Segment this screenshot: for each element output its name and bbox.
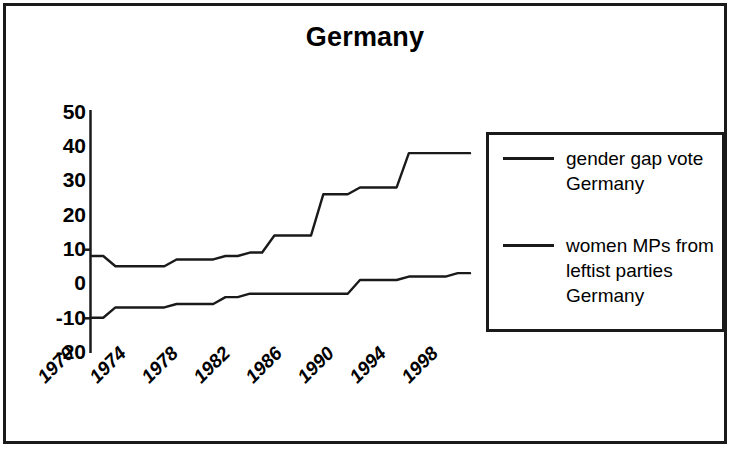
legend-line-swatch-icon [503,244,554,247]
data-line [91,273,470,318]
legend-line-swatch-icon [503,157,554,160]
data-line [91,153,470,266]
chart-figure: Germany 50 40 30 20 10 0 -10 -20 1970 19… [0,0,730,457]
legend-entry: gender gap vote Germany [489,146,722,196]
data-series-group [91,153,470,318]
legend: gender gap vote Germany women MPs from l… [486,132,725,332]
legend-entry: women MPs from leftist parties Germany [489,233,722,308]
legend-entry-label: gender gap vote Germany [566,146,703,196]
legend-entry-label: women MPs from leftist parties Germany [566,233,714,308]
y-axis [84,110,91,353]
